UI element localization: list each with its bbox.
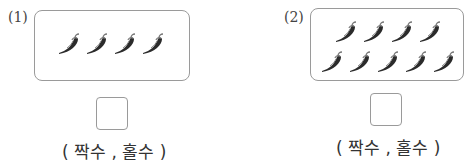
chili-pepper-icon: [432, 51, 456, 73]
chili-pepper-icon: [362, 21, 386, 43]
chili-pepper-icon: [320, 51, 344, 73]
problem-1-label: (1): [8, 9, 28, 25]
problem-2-picture-box: [310, 8, 464, 81]
chili-pepper-icon: [57, 33, 81, 55]
chili-pepper-icon: [141, 33, 165, 55]
problem-1-picture-box: [34, 10, 190, 81]
problem-2-choices[interactable]: ( 짝수 , 홀수 ): [336, 134, 440, 159]
problem-2-label: (2): [284, 9, 304, 25]
problem-2-answer-box[interactable]: [370, 93, 402, 126]
problem-1-answer-box[interactable]: [96, 97, 128, 130]
chili-pepper-icon: [404, 51, 428, 73]
problem-1-choices[interactable]: ( 짝수 , 홀수 ): [62, 138, 166, 163]
chili-pepper-icon: [418, 21, 442, 43]
chili-pepper-icon: [348, 51, 372, 73]
chili-pepper-icon: [390, 21, 414, 43]
chili-pepper-icon: [376, 51, 400, 73]
chili-pepper-icon: [113, 33, 137, 55]
chili-pepper-icon: [85, 33, 109, 55]
chili-pepper-icon: [334, 21, 358, 43]
